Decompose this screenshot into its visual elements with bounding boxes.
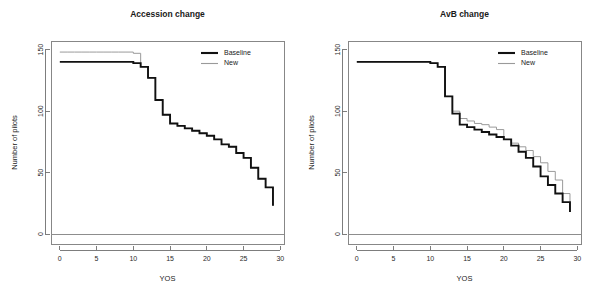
y-axis-title: Number of pilots — [10, 115, 19, 170]
chart-title: AvB change — [440, 9, 489, 19]
y-tick-label: 50 — [334, 169, 341, 177]
legend-label-new: New — [224, 59, 239, 66]
x-tick-label: 15 — [463, 255, 471, 262]
y-tick-label: 150 — [37, 44, 44, 56]
series-line-baseline — [60, 62, 273, 206]
legend-label-baseline: Baseline — [224, 49, 251, 56]
chart-legend: BaselineNew — [498, 49, 548, 67]
x-tick-label: 30 — [276, 255, 284, 262]
y-tick-label: 0 — [334, 232, 341, 236]
x-tick-label: 0 — [355, 255, 359, 262]
x-tick-label: 20 — [203, 255, 211, 262]
plot-area-box — [348, 41, 581, 244]
series-line-baseline — [357, 62, 570, 212]
series-line-new — [357, 62, 570, 212]
chart-legend: BaselineNew — [201, 49, 251, 67]
panel-accession-change: Accession change050100150051015202530YOS… — [0, 0, 297, 306]
x-tick-label: 15 — [166, 255, 174, 262]
y-tick-label: 100 — [334, 105, 341, 117]
x-tick-label: 20 — [500, 255, 508, 262]
x-axis-title: YOS — [457, 274, 473, 283]
y-tick-label: 150 — [334, 44, 341, 56]
chart-avb-change: AvB change050100150051015202530YOSNumber… — [297, 0, 594, 306]
legend-label-new: New — [521, 59, 536, 66]
x-tick-label: 5 — [392, 255, 396, 262]
x-tick-label: 0 — [58, 255, 62, 262]
series-line-new — [60, 52, 273, 206]
x-tick-label: 10 — [129, 255, 137, 262]
y-tick-label: 100 — [37, 105, 44, 117]
plot-area-box — [51, 41, 284, 244]
y-axis-title: Number of pilots — [307, 115, 316, 170]
x-tick-label: 5 — [95, 255, 99, 262]
figure-canvas: Accession change050100150051015202530YOS… — [0, 0, 594, 306]
y-tick-label: 0 — [37, 232, 44, 236]
y-tick-label: 50 — [37, 169, 44, 177]
x-tick-label: 30 — [573, 255, 581, 262]
x-tick-label: 25 — [240, 255, 248, 262]
x-axis-title: YOS — [160, 274, 176, 283]
x-tick-label: 10 — [426, 255, 434, 262]
panel-avb-change: AvB change050100150051015202530YOSNumber… — [297, 0, 594, 306]
chart-accession-change: Accession change050100150051015202530YOS… — [0, 0, 297, 306]
chart-title: Accession change — [130, 9, 205, 19]
x-tick-label: 25 — [537, 255, 545, 262]
legend-label-baseline: Baseline — [521, 49, 548, 56]
